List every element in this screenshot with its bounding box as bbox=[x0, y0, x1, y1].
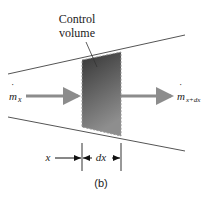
width-label: dx bbox=[96, 151, 107, 163]
svg-text:x+dx: x+dx bbox=[185, 96, 201, 104]
figure-caption: (b) bbox=[94, 177, 107, 189]
svg-text:x: x bbox=[17, 95, 22, 104]
position-label: x bbox=[45, 151, 51, 163]
control-volume bbox=[82, 52, 121, 136]
outflow-label: m ˙ x+dx bbox=[177, 82, 201, 104]
svg-text:˙: ˙ bbox=[179, 82, 182, 93]
svg-text:˙: ˙ bbox=[11, 82, 14, 93]
control-volume-diagram: Control volume m ˙ x m ˙ x+dx x dx (b) bbox=[0, 0, 209, 198]
inflow-label: m ˙ x bbox=[9, 82, 22, 104]
control-volume-label-line1: Control bbox=[59, 12, 96, 26]
control-volume-label-line2: volume bbox=[59, 26, 95, 40]
